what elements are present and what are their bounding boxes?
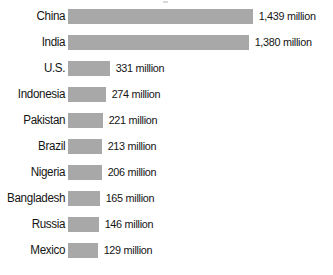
bar-category-label: India [5, 35, 68, 50]
bar-category-label: Bangladesh [5, 191, 68, 206]
bar-row: China1,439 million [0, 9, 333, 24]
bar-category-label: Brazil [5, 139, 68, 154]
bar-row: Russia146 million [0, 217, 333, 232]
bar-value-label: 146 million [99, 217, 153, 232]
bar-rect [68, 217, 99, 232]
bar-rect [68, 113, 103, 128]
bar-rect [68, 87, 106, 102]
bar-row: Brazil213 million [0, 139, 333, 154]
bar-row: Nigeria206 million [0, 165, 333, 180]
bar-value-label: 206 million [102, 165, 156, 180]
bar-category-label: China [5, 9, 68, 24]
bar-rect [68, 139, 102, 154]
bar-rect [68, 61, 110, 76]
bar-category-label: Indonesia [5, 87, 68, 102]
bar-rect [68, 35, 249, 50]
bar-value-label: 331 million [110, 61, 164, 76]
bar-value-label: 274 million [106, 87, 160, 102]
bar-rows-container: China1,439 millionIndia1,380 millionU.S.… [0, 9, 333, 258]
bar-value-label: 221 million [103, 113, 157, 128]
bar-rect [68, 9, 253, 24]
bar-rect [68, 243, 98, 258]
bar-row: Bangladesh165 million [0, 191, 333, 206]
bar-value-label: 213 million [102, 139, 156, 154]
bar-category-label: Mexico [5, 243, 68, 258]
bar-category-label: Russia [5, 217, 68, 232]
bar-value-label: 165 million [100, 191, 154, 206]
bar-row: India1,380 million [0, 35, 333, 50]
bar-row: Pakistan221 million [0, 113, 333, 128]
bar-category-label: Pakistan [5, 113, 68, 128]
population-bar-chart: China1,439 millionIndia1,380 millionU.S.… [0, 0, 333, 275]
bar-rect [68, 191, 100, 206]
bar-value-label: 1,439 million [253, 9, 316, 24]
bar-row: Mexico129 million [0, 243, 333, 258]
bar-value-label: 1,380 million [249, 35, 312, 50]
bar-category-label: U.S. [5, 61, 68, 76]
bar-row: U.S.331 million [0, 61, 333, 76]
bar-rect [68, 165, 102, 180]
bar-value-label: 129 million [98, 243, 152, 258]
top-artifact-speck [163, 1, 168, 3]
bar-row: Indonesia274 million [0, 87, 333, 102]
bar-category-label: Nigeria [5, 165, 68, 180]
